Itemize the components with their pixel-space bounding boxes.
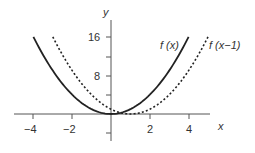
- x-axis-label: x: [218, 121, 224, 132]
- y-tick-label-16: 16: [88, 32, 100, 43]
- legend-f-x: f (x): [160, 40, 179, 51]
- x-tick-label-neg4: −4: [24, 124, 37, 135]
- y-axis-label: y: [103, 7, 109, 18]
- legend-f-x-minus-1: f (x−1): [209, 40, 240, 51]
- curve-f-x-minus-1: [53, 37, 208, 114]
- x-tick-label-neg2: −2: [63, 124, 76, 135]
- x-tick-label-4: 4: [186, 124, 192, 135]
- x-tick-label-2: 2: [147, 124, 153, 135]
- y-ticks: [106, 37, 111, 133]
- y-tick-label-8: 8: [94, 71, 100, 82]
- plot-area: [0, 0, 255, 153]
